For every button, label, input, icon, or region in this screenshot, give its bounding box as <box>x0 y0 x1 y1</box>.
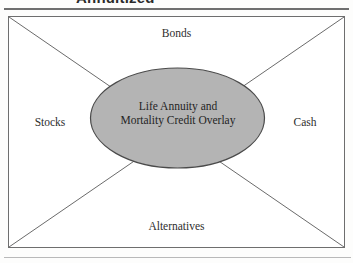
quadrant-label-alternatives: Alternatives <box>0 220 353 232</box>
center-ellipse-label: Life Annuity and Mortality Credit Overla… <box>90 99 266 127</box>
horizontal-rule-bottom <box>4 257 351 258</box>
quadrant-label-cash: Cash <box>265 116 345 128</box>
quadrant-label-bonds: Bonds <box>0 27 353 39</box>
center-ellipse-label-line2: Mortality Credit Overlay <box>90 113 266 127</box>
center-ellipse-label-line1: Life Annuity and <box>90 99 266 113</box>
quadrant-label-stocks: Stocks <box>10 116 90 128</box>
